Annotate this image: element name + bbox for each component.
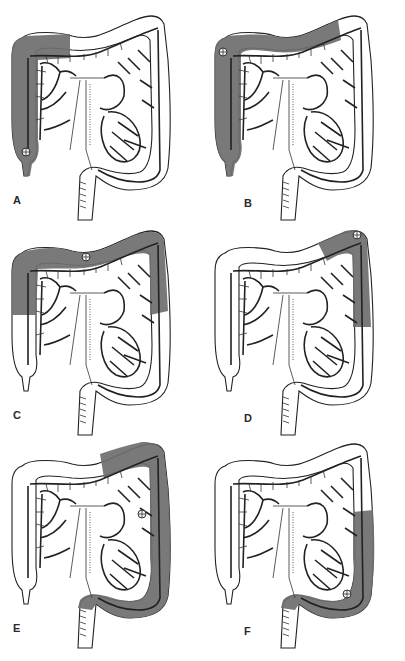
tumor-marker-icon <box>82 253 90 261</box>
resected-region <box>281 510 374 618</box>
colon-illustration <box>203 215 403 435</box>
mesenteric-trunk <box>70 293 104 385</box>
panel-c: C <box>0 215 200 435</box>
mesenteric-trunk <box>70 78 104 170</box>
small-vessels <box>239 470 325 548</box>
panel-e: E <box>0 428 200 648</box>
mesenteric-trunk <box>273 506 307 598</box>
panel-label: B <box>244 197 252 209</box>
colon-outline <box>12 444 170 648</box>
vascular-arcades <box>243 478 357 590</box>
vascular-arcades <box>40 478 154 590</box>
tumor-marker-icon <box>138 510 146 518</box>
colon-illustration <box>0 215 200 435</box>
mesenteric-trunk <box>273 78 307 170</box>
tumor-marker-icon <box>343 590 351 598</box>
colon-illustration <box>203 0 403 220</box>
vascular-arcades <box>40 265 154 377</box>
colon-outline <box>215 231 373 435</box>
vascular-arcades <box>40 50 154 162</box>
tumor-marker-icon <box>22 148 30 156</box>
colon-illustration <box>0 428 200 648</box>
mesenteric-trunk <box>70 506 104 598</box>
panel-label: E <box>13 622 20 634</box>
panel-b: B <box>203 0 403 220</box>
small-vessels <box>239 257 325 335</box>
tumor-marker-icon <box>219 48 227 56</box>
colon-illustration <box>0 0 200 220</box>
tumor-marker-icon <box>353 231 361 239</box>
mesenteric-trunk <box>273 293 307 385</box>
vascular-arcades <box>243 50 357 162</box>
panel-f: F <box>203 428 403 648</box>
colon-illustration <box>203 428 403 648</box>
panel-label: A <box>13 194 21 206</box>
panel-label: C <box>13 409 21 421</box>
small-vessels <box>36 257 122 335</box>
vascular-arcades <box>243 265 357 377</box>
small-vessels <box>36 470 122 548</box>
panel-d: D <box>203 215 403 435</box>
panel-label: D <box>244 412 252 424</box>
small-vessels <box>239 42 325 120</box>
panel-label: F <box>244 625 251 637</box>
panel-a: A <box>0 0 200 220</box>
colon-outline <box>215 444 373 648</box>
